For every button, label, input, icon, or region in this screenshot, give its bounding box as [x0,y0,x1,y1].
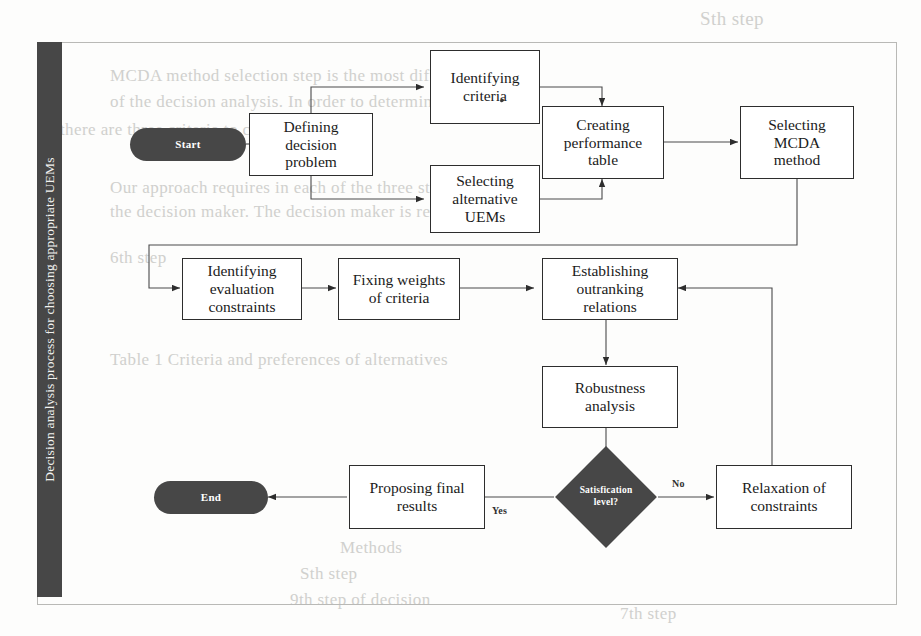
node-start-label: Start [175,138,200,151]
node-satisfication-level[interactable]: Satisfication level? [570,461,642,533]
node-label-line: MCDA [774,134,821,152]
node-label-line: Satisfication [580,485,633,497]
node-proposing-final-results[interactable]: Proposing final results [349,465,485,529]
node-fixing-weights-of-criteria[interactable]: Fixing weights of criteria [338,258,460,320]
node-label-line: decision [285,136,337,154]
node-label-line: problem [285,153,337,171]
node-identifying-criteria[interactable]: Identifying criteria [430,50,540,124]
edge-label-no: No [672,478,685,489]
node-label-line: analysis [585,397,635,415]
edge-criteria-perftable [539,87,602,106]
node-creating-performance-table[interactable]: Creating performance table [542,106,664,179]
figure-canvas: Sth step MCDA method selection step is t… [0,0,921,636]
node-label-line: results [397,497,437,515]
node-satisfication-level-label: Satisfication level? [570,461,642,533]
node-defining-decision-problem[interactable]: Defining decision problem [249,113,373,176]
node-establishing-outranking-relations[interactable]: Establishing outranking relations [542,258,678,320]
edge-define-criteria [311,87,424,113]
node-label-line: level? [594,497,618,509]
node-label-line: Proposing final [369,479,464,497]
node-relaxation-of-constraints[interactable]: Relaxation of constraints [716,465,852,529]
node-label-line: Fixing weights [353,271,446,289]
node-label-line: constraints [750,497,817,515]
node-label-line: Defining [283,118,338,136]
node-label-line: performance [564,134,642,152]
node-label-line: Selecting [768,116,826,134]
edge-label-yes: Yes [492,505,507,516]
node-end-label: End [201,491,221,504]
node-label-line: method [774,151,821,169]
node-label-line: Selecting [456,172,514,190]
node-label-line: Identifying [208,262,277,280]
node-label-line: evaluation [210,280,275,298]
node-label-line: Identifying [451,69,520,87]
edge-define-alternatives [311,176,424,199]
node-label-line: Creating [576,116,629,134]
node-label-line: table [588,151,618,169]
node-label-line: of criteria [369,289,430,307]
node-start[interactable]: Start [130,128,246,161]
node-label-line: UEMs [465,208,505,226]
edge-alternatives-perftable [539,179,602,199]
node-label-line: alternative [452,190,517,208]
node-label-line: Establishing [572,262,649,280]
edge-relaxation-outranking [678,288,772,465]
node-selecting-mcda-method[interactable]: Selecting MCDA method [740,106,854,179]
node-selecting-alternative-uems[interactable]: Selecting alternative UEMs [430,165,540,233]
node-identifying-evaluation-constraints[interactable]: Identifying evaluation constraints [182,258,302,320]
node-label-line: constraints [208,298,275,316]
node-label-line: outranking [576,280,643,298]
node-label-line: Relaxation of [742,479,826,497]
node-label-line: relations [583,298,636,316]
node-label-line: Robustness [575,379,646,397]
node-end[interactable]: End [154,481,268,514]
node-robustness-analysis[interactable]: Robustness analysis [542,366,678,428]
